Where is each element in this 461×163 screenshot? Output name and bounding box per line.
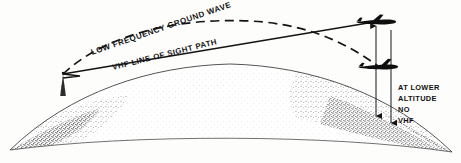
- aircraft-high-altitude: [356, 14, 396, 24]
- aircraft-low-altitude: [358, 59, 398, 70]
- annotation-line-4: VHF: [398, 116, 414, 125]
- ground-transmitter-tower: [60, 72, 66, 96]
- aircraft-low-fuselage: [358, 65, 398, 70]
- annotation-line-3: NO: [398, 105, 410, 114]
- aircraft-high-tail: [357, 18, 363, 22]
- annotation-line-2: ALTITUDE: [398, 94, 437, 103]
- annotation-line-1: AT LOWER: [398, 83, 440, 92]
- diagram-canvas: LOW FREQUENCY GROUND WAVE VHF LINE OF SI…: [0, 0, 461, 163]
- propagation-diagram: LOW FREQUENCY GROUND WAVE VHF LINE OF SI…: [0, 0, 461, 163]
- aircraft-low-tail: [359, 63, 365, 67]
- low-altitude-annotation: AT LOWER ALTITUDE NO VHF: [398, 83, 440, 125]
